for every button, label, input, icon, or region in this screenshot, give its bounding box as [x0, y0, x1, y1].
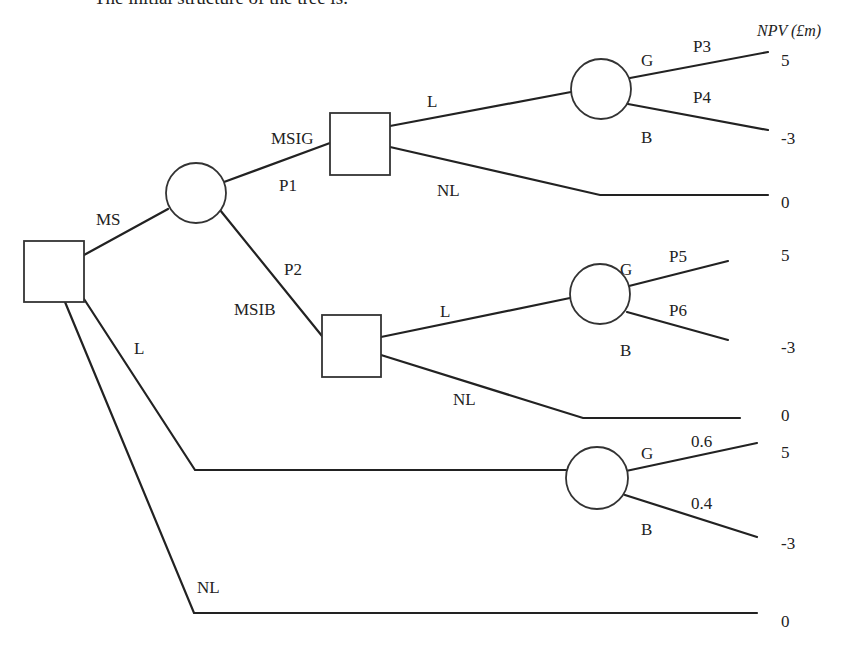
payoff-l-b: -3 [781, 534, 795, 553]
label-l-root: L [134, 339, 144, 358]
payoff-top-g: 5 [781, 51, 790, 70]
edge-ms-msig [224, 143, 330, 182]
payoff-mid-b: -3 [781, 338, 795, 357]
label-p3: P3 [693, 37, 711, 56]
label-ms: MS [96, 210, 121, 229]
edge-msib-l [381, 298, 570, 337]
label-p4: P4 [693, 88, 711, 107]
label-b-top: B [641, 128, 652, 147]
label-g-mid: G [620, 260, 632, 279]
label-nl-msib: NL [453, 390, 476, 409]
label-b-l: B [641, 520, 652, 539]
chance-node-circle-icon [571, 59, 631, 119]
label-l-msib: L [440, 302, 450, 321]
label-l-msig: L [427, 92, 437, 111]
label-msig: MSIG [271, 129, 314, 148]
decision-node-square-icon [322, 315, 381, 377]
payoff-mid-nl: 0 [781, 406, 790, 425]
decision-tree-figure: The initial structure of the tree is: MS… [0, 0, 857, 648]
label-p06: 0.6 [691, 432, 712, 451]
payoff-values: 5-305-305-30 [781, 51, 795, 631]
label-p2: P2 [284, 260, 302, 279]
npv-column-header: NPV (£m) [756, 22, 821, 40]
decision-node-square-icon [24, 241, 84, 302]
label-g-top: G [641, 51, 653, 70]
label-g-l: G [641, 444, 653, 463]
label-nl-root: NL [197, 578, 220, 597]
edge-msig-l-b [628, 104, 768, 130]
edge-msib-nl [381, 355, 740, 418]
tree-nodes [24, 59, 631, 509]
payoff-l-g: 5 [781, 443, 790, 462]
label-p1: P1 [279, 176, 297, 195]
tree-edges [65, 52, 768, 613]
chance-node-circle-icon [166, 163, 226, 223]
edge-msig-l [390, 92, 571, 126]
decision-tree-diagram: The initial structure of the tree is: MS… [0, 0, 857, 648]
decision-node-square-icon [330, 113, 390, 175]
label-nl-msig: NL [437, 181, 460, 200]
chance-node-circle-icon [566, 447, 628, 509]
payoff-nl: 0 [781, 612, 790, 631]
truncated-caption: The initial structure of the tree is: [94, 0, 348, 8]
label-p5: P5 [669, 247, 687, 266]
label-p6: P6 [669, 301, 687, 320]
label-p04: 0.4 [691, 494, 713, 513]
payoff-mid-g: 5 [781, 246, 790, 265]
payoff-top-nl: 0 [781, 193, 790, 212]
label-b-mid: B [620, 341, 631, 360]
label-msib: MSIB [234, 300, 276, 319]
payoff-top-b: -3 [781, 129, 795, 148]
